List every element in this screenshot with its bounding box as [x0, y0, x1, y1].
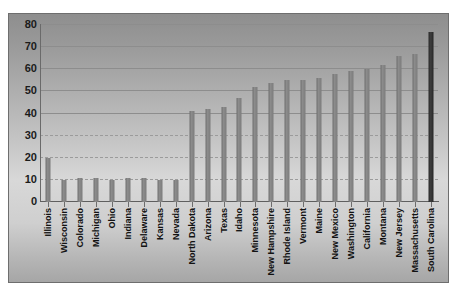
bar — [285, 80, 290, 202]
x-axis-category-label: Minnesota — [251, 208, 260, 253]
x-axis-category-label: New Hampshire — [267, 208, 276, 276]
x-axis-labels: IllinoisWisconsinColoradoMichiganOhioInd… — [40, 208, 439, 282]
x-axis-label-slot: Kansas — [152, 208, 168, 282]
x-axis-label-slot: Washington — [343, 208, 359, 282]
bar — [413, 54, 418, 202]
bar-slot — [136, 24, 152, 202]
x-axis-tick — [383, 202, 384, 207]
bar-slot — [120, 24, 136, 202]
x-axis-tick — [128, 202, 129, 207]
bar-slot — [311, 24, 327, 202]
x-axis-label-slot: Montana — [375, 208, 391, 282]
bar-slot — [263, 24, 279, 202]
bar — [253, 87, 258, 202]
y-axis-tick-label: 60 — [11, 63, 37, 74]
x-axis-label-slot: Michigan — [88, 208, 104, 282]
x-axis-category-label: Kansas — [155, 208, 164, 240]
bar — [141, 178, 146, 202]
x-axis-tick — [399, 202, 400, 207]
bar-slot — [232, 24, 248, 202]
x-axis-label-slot: New Mexico — [327, 208, 343, 282]
bar — [381, 65, 386, 202]
x-axis-tick — [287, 202, 288, 207]
x-axis-tick — [255, 202, 256, 207]
x-axis-tick — [48, 202, 49, 207]
x-axis-category-label: South Carolina — [427, 208, 436, 272]
x-axis-label-slot: Illinois — [40, 208, 56, 282]
y-axis-labels: 01020304050607080 — [9, 14, 37, 214]
x-axis-tick — [335, 202, 336, 207]
bar — [157, 180, 162, 202]
bar — [45, 158, 50, 202]
x-axis-category-label: Ohio — [107, 208, 116, 229]
bar-slot — [56, 24, 72, 202]
x-axis-label-slot: Rhode Island — [279, 208, 295, 282]
y-axis-tick-label: 0 — [11, 196, 37, 207]
x-axis-tick — [415, 202, 416, 207]
x-axis-tick — [160, 202, 161, 207]
x-axis-category-label: Delaware — [139, 208, 148, 248]
x-axis-category-label: Arizona — [203, 208, 212, 241]
x-axis-label-slot: Maine — [311, 208, 327, 282]
x-axis-category-label: Vermont — [299, 208, 308, 244]
x-axis-category-label: Michigan — [91, 208, 100, 247]
x-axis-label-slot: Colorado — [72, 208, 88, 282]
x-axis-label-slot: Texas — [216, 208, 232, 282]
x-axis-category-label: Indiana — [123, 208, 132, 240]
x-axis-tick — [319, 202, 320, 207]
bar-slot — [88, 24, 104, 202]
bar — [333, 74, 338, 202]
bar-slot — [104, 24, 120, 202]
bar-slot — [343, 24, 359, 202]
bar-slot — [295, 24, 311, 202]
x-axis-tick — [224, 202, 225, 207]
x-axis-label-slot: Vermont — [295, 208, 311, 282]
bar-slot — [327, 24, 343, 202]
x-axis-label-slot: Delaware — [136, 208, 152, 282]
bar — [349, 71, 354, 202]
x-axis-category-label: Massachusetts — [411, 208, 420, 273]
bar — [397, 56, 402, 202]
x-axis-label-slot: Ohio — [104, 208, 120, 282]
x-axis-category-label: Rhode Island — [283, 208, 292, 265]
y-axis-tick-label: 70 — [11, 41, 37, 52]
x-axis-tick — [96, 202, 97, 207]
x-axis-tick — [208, 202, 209, 207]
x-axis-label-slot: New Jersey — [391, 208, 407, 282]
y-axis-tick-label: 20 — [11, 152, 37, 163]
x-axis-label-slot: Massachusetts — [407, 208, 423, 282]
x-axis-tick — [112, 202, 113, 207]
x-axis-tick — [64, 202, 65, 207]
x-axis-category-label: Montana — [379, 208, 388, 245]
bar — [205, 109, 210, 202]
bar — [77, 178, 82, 202]
bar-slot — [407, 24, 423, 202]
bar — [189, 111, 194, 202]
x-axis-tick — [192, 202, 193, 207]
x-axis-category-label: Colorado — [75, 208, 84, 248]
bar — [173, 180, 178, 202]
bar — [237, 98, 242, 202]
bar — [301, 80, 306, 202]
x-axis-category-label: Wisconsin — [59, 208, 68, 253]
x-axis-category-label: Texas — [219, 208, 228, 233]
x-axis-tick — [271, 202, 272, 207]
x-axis-label-slot: South Carolina — [423, 208, 439, 282]
bar-slot — [279, 24, 295, 202]
x-axis-tick — [240, 202, 241, 207]
x-axis-label-slot: Nevada — [168, 208, 184, 282]
bar-series — [40, 24, 439, 202]
x-axis-category-label: Maine — [315, 208, 324, 234]
x-axis-category-label: New Mexico — [331, 208, 340, 260]
x-axis-label-slot: North Dakota — [184, 208, 200, 282]
x-axis-category-label: North Dakota — [187, 208, 196, 265]
bar-slot — [375, 24, 391, 202]
x-axis-category-label: California — [363, 208, 372, 250]
bar — [429, 32, 434, 202]
x-axis-label-slot: California — [359, 208, 375, 282]
bar — [365, 69, 370, 202]
x-axis-tick — [176, 202, 177, 207]
bar — [221, 107, 226, 202]
bar-slot — [359, 24, 375, 202]
bar-slot — [168, 24, 184, 202]
